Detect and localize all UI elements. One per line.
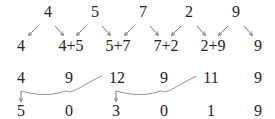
- result-digit: 1: [207, 103, 215, 119]
- arrow-down-right-icon: [150, 26, 158, 35]
- term: 4: [17, 38, 25, 54]
- carry-curve: [116, 76, 197, 95]
- arrow-down-right-icon: [102, 26, 110, 35]
- result-digit: 0: [65, 103, 73, 119]
- term: 2+9: [200, 38, 225, 54]
- sum: 9: [254, 70, 262, 86]
- sum: 11: [203, 70, 218, 86]
- arrow-down-right-icon: [244, 26, 252, 35]
- result-digit: 9: [254, 103, 262, 119]
- arrow-down-left-icon: [125, 26, 134, 35]
- arrow-down-left-icon: [29, 26, 38, 35]
- term: 9: [254, 38, 262, 54]
- arrow-down-left-icon: [219, 26, 228, 35]
- arrows: [0, 0, 275, 119]
- carry-curve: [21, 76, 102, 95]
- result-digit: 0: [160, 103, 168, 119]
- arrow-down-right-icon: [197, 26, 205, 35]
- arrow-down-left-icon: [77, 26, 86, 35]
- sum: 9: [65, 70, 73, 86]
- term: 4+5: [58, 38, 83, 54]
- result-digit: 5: [17, 103, 25, 119]
- arrow-down-left-icon: [172, 26, 181, 35]
- sum: 4: [17, 70, 25, 86]
- sum: 12: [109, 70, 125, 86]
- term: 7+2: [153, 38, 178, 54]
- result-digit: 3: [112, 103, 120, 119]
- sum: 9: [160, 70, 168, 86]
- term: 5+7: [105, 38, 130, 54]
- arrow-down-right-icon: [55, 26, 63, 35]
